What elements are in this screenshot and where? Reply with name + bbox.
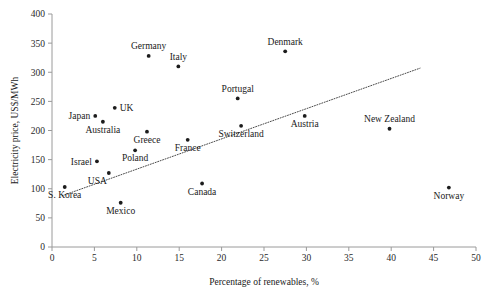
point-marker	[63, 185, 67, 189]
y-tick-label: 200	[31, 126, 46, 136]
point-label: Poland	[122, 153, 149, 163]
data-point: Israel	[71, 157, 99, 167]
data-point: Switzerland	[218, 124, 264, 139]
y-tick-label: 350	[31, 39, 46, 49]
point-marker	[303, 114, 307, 118]
point-label: Switzerland	[218, 129, 264, 139]
y-tick-label: 300	[31, 68, 46, 78]
point-label: Mexico	[106, 206, 135, 216]
x-tick-label: 35	[344, 253, 354, 263]
point-label: Greece	[134, 135, 161, 145]
data-point: Japan	[69, 111, 98, 121]
y-tick-label: 150	[31, 155, 46, 165]
point-marker	[95, 159, 99, 163]
axis-titles: Percentage of renewables, %Electricity p…	[10, 77, 319, 287]
x-tick-label: 50	[471, 253, 481, 263]
point-marker	[133, 148, 137, 152]
point-marker	[107, 171, 111, 175]
scatter-chart: 0501001502002503003504000510152025303540…	[0, 0, 500, 300]
data-point: Australia	[85, 120, 121, 135]
point-label: Italy	[170, 52, 188, 62]
data-point: USA	[88, 171, 111, 186]
point-marker	[147, 54, 151, 58]
point-label: France	[175, 143, 201, 153]
point-label: Canada	[188, 187, 217, 197]
point-label: Portugal	[222, 84, 255, 94]
point-label: Israel	[71, 157, 92, 167]
x-tick-label: 10	[132, 253, 142, 263]
x-tick-label: 15	[174, 253, 184, 263]
point-marker	[93, 114, 97, 118]
point-marker	[176, 65, 180, 69]
x-axis-title: Percentage of renewables, %	[209, 277, 319, 287]
x-tick-label: 30	[302, 253, 312, 263]
x-tick-label: 0	[50, 253, 55, 263]
point-label: S. Korea	[48, 190, 82, 200]
data-point: New Zealand	[364, 114, 415, 130]
data-point: Mexico	[106, 201, 135, 216]
point-label: Germany	[131, 41, 167, 51]
point-label: Norway	[434, 191, 465, 201]
point-marker	[119, 201, 123, 205]
point-label: USA	[88, 176, 107, 186]
y-tick-label: 100	[31, 184, 46, 194]
point-label: Austria	[291, 119, 320, 129]
data-point: France	[175, 138, 201, 153]
y-tick-label: 400	[31, 9, 46, 19]
y-tick-label: 250	[31, 97, 46, 107]
data-point: Greece	[134, 130, 161, 145]
point-marker	[145, 130, 149, 134]
data-point: Portugal	[222, 84, 255, 100]
point-marker	[101, 120, 105, 124]
data-point: S. Korea	[48, 185, 82, 200]
data-point: UK	[113, 103, 134, 113]
point-marker	[388, 127, 392, 131]
data-point: Italy	[170, 52, 188, 68]
point-marker	[200, 182, 204, 186]
point-label: Denmark	[268, 37, 304, 47]
point-label: Australia	[85, 125, 121, 135]
x-tick-label: 20	[217, 253, 227, 263]
point-marker	[283, 49, 287, 53]
data-point: Poland	[122, 148, 149, 163]
x-tick-label: 40	[386, 253, 396, 263]
y-tick-label: 50	[36, 213, 46, 223]
y-tick-label: 0	[40, 242, 45, 252]
data-point: Norway	[434, 186, 465, 201]
point-marker	[239, 124, 243, 128]
x-tick-label: 25	[259, 253, 269, 263]
plot-area: 0501001502002503003504000510152025303540…	[0, 0, 500, 300]
point-label: New Zealand	[364, 114, 415, 124]
point-marker	[236, 97, 240, 101]
point-marker	[447, 186, 451, 190]
point-marker	[186, 138, 190, 142]
y-axis-title: Electricity price, US$/MWh	[10, 77, 20, 185]
data-point: Austria	[291, 114, 320, 129]
point-marker	[113, 106, 117, 110]
data-point: Canada	[188, 182, 217, 197]
x-tick-label: 5	[92, 253, 97, 263]
data-point: Germany	[131, 41, 167, 57]
data-point: Denmark	[268, 37, 304, 53]
point-label: UK	[120, 103, 134, 113]
x-tick-label: 45	[429, 253, 439, 263]
point-label: Japan	[69, 111, 91, 121]
